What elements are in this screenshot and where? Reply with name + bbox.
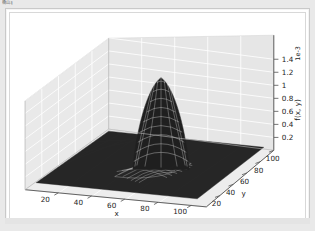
x-tick-label: 20 <box>41 195 51 204</box>
x-axis-label: x <box>115 209 120 218</box>
x-tick-label: 80 <box>140 204 150 213</box>
y-tick-label: 40 <box>226 188 236 197</box>
y-axis-label: y <box>241 189 246 198</box>
z-axis-ticks: 0.2 0.4 0.6 0.8 1 1.2 1.4 f(x, y) 1e-3 <box>274 46 302 142</box>
matplotlib-figure[interactable]: 20 40 60 80 100 x <box>10 13 305 219</box>
z-tick-label: 0.6 <box>282 107 294 116</box>
figure-card-inner: 20 40 60 80 100 x <box>9 12 306 220</box>
x-tick-label: 100 <box>173 207 187 216</box>
z-tick-label: 1.4 <box>282 55 294 64</box>
header-caption: 橋山.lj <box>2 0 13 5</box>
x-tick-label: 40 <box>74 198 84 207</box>
z-tick-label: 1 <box>282 81 287 90</box>
z-axis-offset-text: 1e-3 <box>294 46 302 61</box>
y-tick-label: 100 <box>266 154 280 163</box>
z-tick-label: 0.4 <box>282 120 294 129</box>
z-tick-label: 1.2 <box>282 68 294 77</box>
figure-card: 20 40 60 80 100 x <box>5 8 310 224</box>
y-tick-label: 20 <box>212 199 222 208</box>
z-tick-label: 0.2 <box>282 133 294 142</box>
y-tick-label: 60 <box>240 177 250 186</box>
surface-plot-svg[interactable]: 20 40 60 80 100 x <box>10 13 305 219</box>
screenshot-root: 橋山.lj <box>0 0 315 231</box>
z-tick-label: 0.8 <box>282 94 294 103</box>
y-tick-label: 80 <box>254 166 264 175</box>
viewer-bottom-strip <box>5 218 310 224</box>
z-axis-label: f(x, y) <box>293 99 302 121</box>
